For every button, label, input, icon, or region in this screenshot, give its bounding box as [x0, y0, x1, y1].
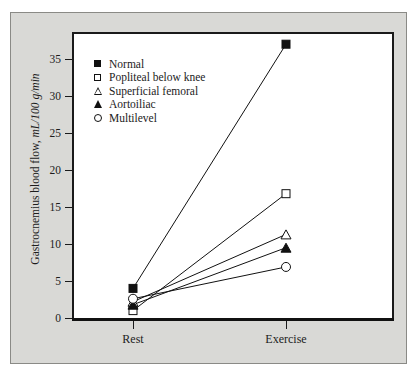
data-point-multilevel-rest — [129, 294, 138, 303]
legend-item-superficial-femoral: Superficial femoral — [91, 84, 205, 98]
open-square-icon — [91, 74, 104, 81]
filled-triangle-icon — [91, 100, 104, 108]
legend-label-superficial-femoral: Superficial femoral — [109, 85, 198, 97]
legend-label-normal: Normal — [109, 58, 144, 70]
legend-item-normal: Normal — [91, 57, 205, 71]
data-layer — [11, 13, 408, 365]
series-line-multilevel — [133, 267, 286, 299]
figure-panel: Gastrocnemius blood flow, mL/100 g/min 0… — [10, 12, 407, 364]
legend-label-aortoiliac: Aortoiliac — [109, 98, 156, 110]
data-point-popliteal-below-knee-exercise — [282, 190, 290, 198]
data-point-normal-rest — [129, 284, 137, 292]
legend-label-multilevel: Multilevel — [109, 112, 157, 124]
data-point-multilevel-exercise — [282, 262, 291, 271]
legend-label-popliteal-below-knee: Popliteal below knee — [109, 71, 205, 83]
open-circle-icon — [91, 114, 104, 122]
series-line-superficial-femoral — [133, 234, 286, 301]
series-line-aortoiliac — [133, 248, 286, 305]
legend-item-multilevel: Multilevel — [91, 111, 205, 125]
legend: Normal Popliteal below knee Superficial … — [91, 57, 205, 125]
open-triangle-icon — [91, 87, 104, 95]
legend-item-popliteal-below-knee: Popliteal below knee — [91, 71, 205, 85]
data-point-aortoiliac-exercise — [281, 243, 291, 252]
legend-item-aortoiliac: Aortoiliac — [91, 98, 205, 112]
data-point-normal-exercise — [282, 40, 290, 48]
data-point-superficial-femoral-exercise — [281, 230, 291, 239]
filled-square-icon — [91, 60, 104, 67]
